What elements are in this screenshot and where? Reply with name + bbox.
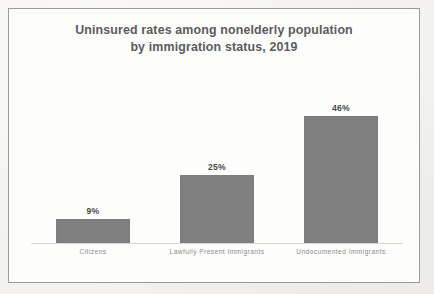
bar-undocumented-immigrants[interactable] [304, 116, 378, 244]
chart-page: Uninsured rates among nonelderly populat… [0, 0, 434, 294]
chart-title-line-1: Uninsured rates among nonelderly populat… [9, 22, 419, 39]
chart-frame: Uninsured rates among nonelderly populat… [8, 8, 420, 283]
bar-group-citizens: 9% [31, 55, 155, 244]
bar-group-lawfully-present-immigrants: 25% [155, 55, 279, 244]
chart-title-line-2: by immigration status, 2019 [9, 39, 419, 56]
bar-citizens[interactable] [56, 219, 130, 244]
bar-lawfully-present-immigrants[interactable] [180, 175, 254, 244]
chart-title: Uninsured rates among nonelderly populat… [9, 22, 419, 55]
x-tick-label-citizens: Citizens [31, 244, 155, 255]
x-tick-label-undocumented-immigrants: Undocumented Immigrants [279, 244, 403, 255]
x-tick-label-lawfully-present-immigrants: Lawfully Present Immigrants [155, 244, 279, 255]
bar-series: 9% 25% 46% [31, 55, 403, 244]
bar-value-lawfully-present-immigrants: 25% [208, 162, 226, 172]
x-axis-tick-labels: Citizens Lawfully Present Immigrants Und… [31, 244, 403, 264]
plot-area: 9% 25% 46% Citizens Lawfully P [31, 55, 403, 266]
bar-group-undocumented-immigrants: 46% [279, 55, 403, 244]
chart-inner: Uninsured rates among nonelderly populat… [9, 9, 419, 282]
bar-value-undocumented-immigrants: 46% [332, 103, 350, 113]
bar-value-citizens: 9% [87, 206, 100, 216]
